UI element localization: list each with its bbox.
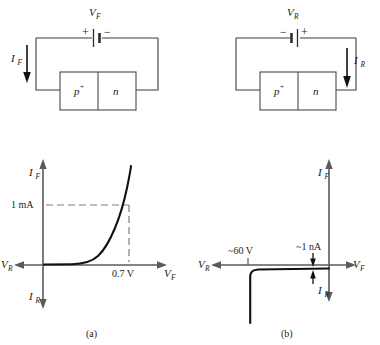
- graph-a-y-down-subscript: R: [35, 296, 41, 305]
- circuit-a-terminal-plus: +: [82, 25, 89, 39]
- graph-b-y-up-label: I: [317, 166, 323, 178]
- panel-b-circuit: V R − + I R p + n: [236, 6, 366, 110]
- circuit-b-region-p-label: p: [273, 85, 280, 97]
- circuit-b-terminal-plus: +: [301, 25, 308, 39]
- circuit-a-region-p-label: p: [73, 85, 80, 97]
- graph-b-x-right-subscript: F: [359, 264, 365, 273]
- graph-a-y-down-label: I: [28, 290, 34, 302]
- circuit-b-region-p-superscript: +: [280, 83, 284, 91]
- graph-a-current-marker-label: 1 mA: [11, 199, 34, 210]
- graph-b-y-down-subscript: R: [324, 290, 330, 299]
- circuit-b-current-label: I: [353, 54, 359, 66]
- circuit-b-wire-left: [236, 38, 260, 90]
- circuit-a-wire-right: [136, 38, 158, 90]
- figure-captions: (a) (b): [86, 328, 293, 340]
- panel-b-graph: I F I R V R V F ~60 V ~1 nA: [198, 159, 365, 323]
- graph-b-y-down-label: I: [317, 284, 323, 296]
- circuit-a-region-p-superscript: +: [80, 83, 84, 91]
- circuit-a-current-label: I: [10, 52, 16, 64]
- circuit-a-current-arrow-head: [23, 72, 31, 83]
- circuit-b-source-subscript: R: [293, 12, 299, 21]
- diode-characteristics-figure: V F + − I F p + n V R −: [0, 0, 380, 345]
- graph-b-breakdown-label: ~60 V: [228, 245, 254, 256]
- panel-a-caption: (a): [86, 328, 97, 340]
- graph-b-x-left-subscript: R: [204, 264, 210, 273]
- circuit-b-current-arrow-head: [343, 76, 351, 88]
- graph-a-y-up-label: I: [28, 166, 34, 178]
- graph-a-x-axis-left-arrowhead: [14, 261, 24, 268]
- graph-b-x-axis-left-arrowhead: [211, 261, 221, 268]
- figure-root: V F + − I F p + n V R −: [0, 0, 380, 345]
- circuit-b-current-subscript: R: [360, 60, 366, 69]
- graph-a-voltage-marker-label: 0.7 V: [112, 268, 135, 279]
- panel-b-caption: (b): [281, 328, 293, 340]
- graph-b-leakage-label: ~1 nA: [296, 241, 322, 252]
- panel-a-circuit: V F + − I F p + n: [10, 6, 158, 110]
- graph-a-forward-iv-curve: [44, 166, 131, 265]
- graph-a-x-right-subscript: F: [170, 273, 176, 282]
- graph-a-x-left-subscript: R: [7, 264, 13, 273]
- circuit-a-region-n-label: n: [113, 85, 119, 97]
- circuit-b-region-n-label: n: [313, 85, 319, 97]
- circuit-a-wire-loop: [36, 38, 60, 90]
- graph-a-y-up-subscript: F: [35, 172, 41, 181]
- circuit-b-terminal-minus: −: [280, 25, 287, 39]
- graph-a-y-axis-up-arrowhead: [39, 159, 46, 169]
- circuit-a-terminal-minus: −: [104, 25, 111, 39]
- panel-a-graph: I F I R V R V F 1 mA 0.7 V: [1, 159, 176, 309]
- graph-b-leakage-arrow-lower-head: [310, 270, 316, 279]
- circuit-a-source-subscript: F: [95, 12, 101, 21]
- graph-b-y-up-subscript: F: [324, 172, 330, 181]
- graph-a-y-axis-down-arrowhead: [39, 299, 46, 309]
- circuit-a-current-subscript: F: [17, 58, 23, 67]
- graph-b-y-axis-up-arrowhead: [325, 159, 332, 169]
